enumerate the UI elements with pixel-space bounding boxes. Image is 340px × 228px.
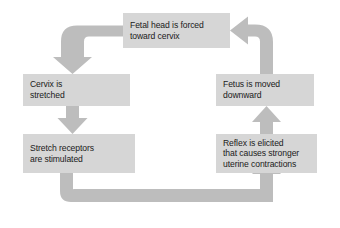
node-stretch-line-1: Stretch receptors xyxy=(30,143,129,154)
node-reflex-line-2: that causes stronger xyxy=(223,148,311,159)
node-cervix-line-1: Cervix is xyxy=(30,79,124,90)
edge-fetal-head-to-cervix xyxy=(53,26,123,75)
node-cervix-is-stretched: Cervix is stretched xyxy=(23,74,130,106)
edge-cervix-to-stretch xyxy=(58,106,88,134)
feedback-cycle-diagram: Fetal head is forced toward cervix Cervi… xyxy=(0,0,340,228)
node-reflex-line-3: uterine contractions xyxy=(223,159,311,170)
node-fetus-line-1: Fetus is moved xyxy=(223,79,308,90)
node-fetal-head-line-2: toward cervix xyxy=(130,31,224,42)
node-stretch-line-2: are stimulated xyxy=(30,154,129,165)
node-reflex-line-1: Reflex is elicited xyxy=(223,138,311,149)
node-cervix-line-2: stretched xyxy=(30,90,124,101)
node-fetal-head-forced-toward-cervix: Fetal head is forced toward cervix xyxy=(123,13,230,48)
node-fetus-line-2: downward xyxy=(223,90,308,101)
node-fetus-moved-downward: Fetus is moved downward xyxy=(216,74,314,106)
node-stretch-receptors-stimulated: Stretch receptors are stimulated xyxy=(23,134,135,173)
edge-reflex-to-fetus xyxy=(252,106,281,134)
node-fetal-head-line-1: Fetal head is forced xyxy=(130,20,224,31)
edge-fetus-to-fetal-head xyxy=(230,17,273,75)
node-reflex-elicited-uterine-contractions: Reflex is elicited that causes stronger … xyxy=(216,134,317,173)
